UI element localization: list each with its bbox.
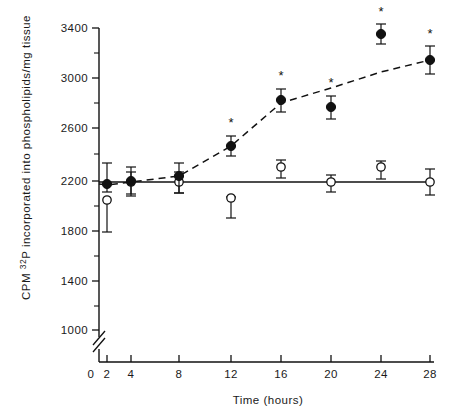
x-tick-label: 20 — [324, 368, 338, 380]
x-tick-label: 24 — [374, 368, 388, 380]
y-axis-title: CPM 32P incorporated into phospholipids/… — [18, 15, 32, 300]
svg-text:CPM 32P incorporated into phos: CPM 32P incorporated into phospholipids/… — [18, 15, 32, 300]
y-tick-1000: 1000 — [61, 324, 99, 336]
data-point-open — [377, 163, 385, 171]
y-tick-label: 3000 — [61, 72, 88, 84]
x-tick-28: 28 — [423, 355, 437, 380]
x-axis-title: Time (hours) — [233, 394, 304, 406]
x-tick-8: 8 — [176, 355, 183, 380]
data-point-open — [327, 178, 335, 186]
y-tick-label: 1000 — [61, 324, 88, 336]
data-point-open — [103, 196, 111, 204]
chart-canvas: CPM 32P incorporated into phospholipids/… — [0, 0, 451, 416]
x-tick-24: 24 — [374, 355, 388, 380]
y-tick-1800: 1800 — [61, 225, 99, 237]
significance-asterisk: * — [427, 26, 432, 41]
y-tick-label: 1800 — [61, 225, 88, 237]
y-tick-label: 2600 — [61, 122, 88, 134]
significance-asterisk: * — [278, 68, 283, 83]
data-point-closed — [174, 171, 183, 180]
x-tick-label: 4 — [128, 368, 135, 380]
x-tick-2: 2 — [104, 355, 111, 380]
y-axis-title-prefix: CPM — [20, 269, 32, 300]
y-tick-label: 3400 — [61, 22, 88, 34]
x-tick-label: 0 — [88, 368, 95, 380]
open-series-markers — [103, 163, 434, 204]
data-point-open — [426, 178, 434, 186]
x-tick-label: 16 — [274, 368, 288, 380]
data-point-closed — [102, 179, 111, 188]
data-point-open — [277, 163, 285, 171]
x-tick-label: 2 — [104, 368, 111, 380]
x-tick-0: 0 — [88, 368, 95, 380]
closed-series-errorbars — [102, 24, 435, 196]
x-tick-16: 16 — [274, 355, 288, 380]
y-tick-3000: 3000 — [61, 72, 99, 84]
y-tick-2600: 2600 — [61, 122, 99, 134]
significance-asterisk: * — [228, 115, 233, 130]
chart-figure: CPM 32P incorporated into phospholipids/… — [0, 0, 451, 416]
y-tick-1400: 1400 — [61, 275, 99, 287]
y-axis-title-superscript: 32 — [18, 259, 28, 269]
x-tick-label: 12 — [224, 368, 238, 380]
data-point-closed — [276, 95, 285, 104]
y-tick-2200: 2200 — [61, 175, 99, 187]
data-point-closed — [226, 141, 235, 150]
x-tick-label: 28 — [423, 368, 437, 380]
data-point-closed — [425, 55, 434, 64]
y-axis-title-suffix: P incorporated into phospholipids/mg tis… — [20, 15, 32, 259]
x-tick-label: 8 — [176, 368, 183, 380]
data-point-closed — [126, 176, 135, 185]
y-tick-label: 1400 — [61, 275, 88, 287]
open-series-errorbars — [102, 160, 435, 232]
data-point-closed — [326, 102, 335, 111]
data-point-open — [227, 194, 235, 202]
y-tick-3400: 3400 — [61, 22, 99, 34]
x-tick-4: 4 — [128, 355, 135, 380]
data-point-closed — [376, 29, 385, 38]
significance-asterisk: * — [378, 4, 383, 19]
significance-asterisk: * — [328, 75, 333, 90]
x-tick-12: 12 — [224, 355, 238, 380]
y-tick-label: 2200 — [61, 175, 88, 187]
y-minor-ticks — [94, 53, 99, 306]
x-tick-20: 20 — [324, 355, 338, 380]
